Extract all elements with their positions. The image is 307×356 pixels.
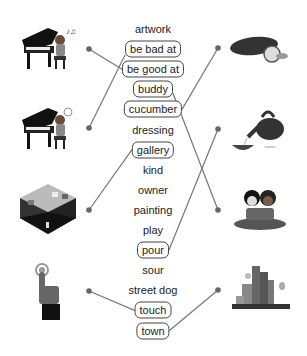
svg-text:♪♫: ♪♫ [66, 27, 76, 36]
left-dot-4[interactable] [86, 288, 92, 294]
right-dot-1[interactable] [215, 45, 221, 51]
town-icon [228, 262, 294, 314]
word-be-good-at[interactable]: be good at [122, 61, 184, 78]
word-cucumber[interactable]: cucumber [124, 101, 182, 118]
piano-player-good-icon: ♪♫ [18, 22, 78, 74]
word-artwork[interactable]: artwork [131, 22, 175, 37]
art-gallery-icon [16, 180, 80, 238]
word-be-bad-at[interactable]: be bad at [125, 41, 181, 58]
left-dot-3[interactable] [86, 207, 92, 213]
word-play[interactable]: play [139, 223, 167, 238]
left-dot-1[interactable] [86, 46, 92, 52]
connector-line-left-2 [89, 55, 125, 128]
word-buddy[interactable]: buddy [133, 81, 173, 98]
connector-line-left-3 [89, 150, 132, 210]
right-dot-2[interactable] [215, 126, 221, 132]
word-gallery[interactable]: gallery [132, 141, 174, 158]
piano-player-bad-icon [18, 102, 78, 154]
teapot-pouring-icon [228, 105, 290, 155]
cucumber-icon [228, 32, 290, 66]
connector-line-right-2 [169, 129, 218, 250]
left-dot-2[interactable] [86, 125, 92, 131]
right-dot-4[interactable] [215, 287, 221, 293]
word-dressing[interactable]: dressing [128, 122, 178, 137]
word-pour[interactable]: pour [137, 242, 169, 259]
finger-touch-icon [34, 262, 64, 324]
right-dot-3[interactable] [215, 207, 221, 213]
word-town[interactable]: town [136, 322, 169, 339]
word-painting[interactable]: painting [130, 202, 177, 217]
connector-line-right-1 [182, 48, 218, 109]
word-street-dog[interactable]: street dog [125, 283, 182, 298]
buddies-icon [230, 184, 292, 232]
word-sour[interactable]: sour [138, 263, 167, 278]
connector-line-left-1 [89, 49, 122, 69]
word-kind[interactable]: kind [139, 162, 167, 177]
word-owner[interactable]: owner [134, 182, 172, 197]
word-touch[interactable]: touch [135, 302, 172, 319]
